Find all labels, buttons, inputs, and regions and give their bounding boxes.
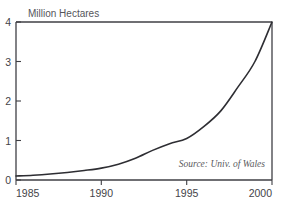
line-chart: Million Hectares 0 1 2 3 4 1985 1990 199… (0, 0, 287, 208)
y-tick-label-0: 0 (5, 174, 11, 186)
source-annotation: Source: Univ. of Wales (179, 159, 265, 169)
y-tick-label-4: 4 (5, 16, 11, 28)
chart-canvas: Million Hectares 0 1 2 3 4 1985 1990 199… (0, 0, 287, 208)
x-tick-label-1990: 1990 (90, 187, 114, 199)
y-tick-label-1: 1 (5, 135, 11, 147)
x-tick-label-1995: 1995 (175, 187, 199, 199)
x-tick-label-2000: 2000 (249, 187, 273, 199)
y-tick-label-2: 2 (5, 95, 11, 107)
y-axis-title: Million Hectares (28, 8, 99, 19)
x-tick-label-1985: 1985 (16, 187, 40, 199)
y-tick-label-3: 3 (5, 56, 11, 68)
data-series-line (16, 22, 272, 176)
